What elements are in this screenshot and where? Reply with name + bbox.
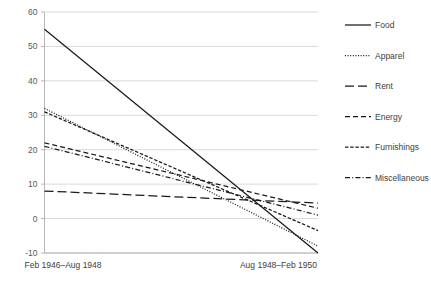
legend-label-furnishings: Furnishings (375, 142, 419, 152)
legend-label-apparel: Apparel (375, 51, 404, 61)
legend-group: FoodApparelRentEnergyFurnishingsMiscella… (345, 20, 429, 183)
series-line-rent (45, 191, 319, 203)
line-chart: -100102030405060 Feb 1946–Aug 1948Aug 19… (0, 0, 431, 285)
series-line-energy (45, 143, 319, 208)
series-line-food (45, 29, 319, 253)
legend-label-rent: Rent (375, 81, 394, 91)
legend-label-food: Food (375, 20, 395, 30)
x-category-label-1: Aug 1948–Feb 1950 (240, 260, 317, 270)
y-tick-label: -10 (25, 248, 38, 258)
y-tick-label: 20 (28, 145, 38, 155)
series-line-furnishings (45, 112, 319, 231)
series-line-miscellaneous (45, 146, 319, 215)
y-tick-label: 10 (28, 179, 38, 189)
y-tick-label: 40 (28, 76, 38, 86)
y-tick-label: 50 (28, 41, 38, 51)
axes-group (45, 12, 319, 253)
gridlines-group (45, 12, 319, 253)
y-tick-labels-group: -100102030405060 (25, 7, 44, 258)
legend-label-energy: Energy (375, 112, 403, 122)
chart-canvas: -100102030405060 Feb 1946–Aug 1948Aug 19… (0, 0, 431, 285)
legend-label-miscellaneous: Miscellaneous (375, 173, 429, 183)
y-tick-label: 0 (33, 214, 38, 224)
y-tick-label: 30 (28, 110, 38, 120)
y-tick-label: 60 (28, 7, 38, 17)
series-group (45, 29, 319, 253)
x-category-label-0: Feb 1946–Aug 1948 (25, 260, 102, 270)
x-category-labels-group: Feb 1946–Aug 1948Aug 1948–Feb 1950 (25, 260, 318, 270)
